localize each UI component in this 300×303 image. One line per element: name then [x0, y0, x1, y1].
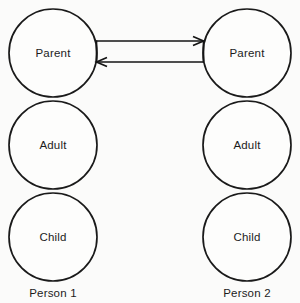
person-2-child-ego-state[interactable]: Child — [203, 193, 291, 281]
person-2-parent-ego-state[interactable]: Parent — [203, 9, 291, 97]
response-arrow-left[interactable] — [97, 58, 205, 67]
transactional-analysis-svg: Parent Adult Child Person 1 Parent Adult — [0, 0, 300, 303]
person-2-adult-ego-state[interactable]: Adult — [203, 101, 291, 189]
person-1-column: Parent Adult Child Person 1 — [9, 9, 97, 299]
person-1-caption: Person 1 — [29, 287, 77, 299]
person-1-parent-label: Parent — [35, 47, 71, 59]
ego-state-diagram: Parent Adult Child Person 1 Parent Adult — [0, 0, 300, 303]
person-1-parent-ego-state[interactable]: Parent — [9, 9, 97, 97]
stimulus-arrow-right[interactable] — [96, 37, 204, 46]
person-1-adult-ego-state[interactable]: Adult — [9, 101, 97, 189]
transaction-arrows — [96, 37, 204, 67]
person-2-column: Parent Adult Child Person 2 — [203, 9, 291, 299]
person-1-adult-label: Adult — [39, 139, 67, 151]
person-1-child-label: Child — [39, 231, 66, 243]
person-2-child-label: Child — [233, 231, 260, 243]
person-2-adult-label: Adult — [233, 139, 261, 151]
person-2-caption: Person 2 — [223, 287, 271, 299]
person-2-parent-label: Parent — [229, 47, 265, 59]
person-1-child-ego-state[interactable]: Child — [9, 193, 97, 281]
